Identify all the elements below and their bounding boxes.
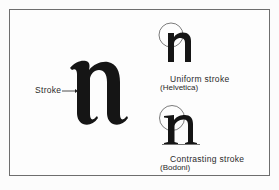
stroke-pointer-arrow-icon: [62, 88, 78, 94]
bodoni-typeface-label: (Bodoni): [160, 164, 190, 172]
stroke-label: Stroke: [35, 86, 61, 95]
helvetica-n-glyph: [157, 22, 197, 66]
bodoni-n-glyph: [158, 104, 204, 146]
large-n-glyph: [66, 60, 132, 128]
helvetica-typeface-label: (Helvetica): [160, 84, 198, 92]
